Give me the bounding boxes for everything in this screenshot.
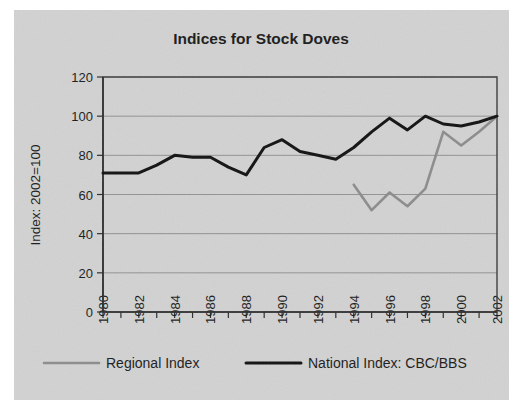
y-tick-label: 60: [79, 188, 93, 203]
y-tick-label: 40: [79, 227, 93, 242]
x-tick-label: 1984: [168, 295, 183, 324]
x-tick-label: 1990: [275, 295, 290, 324]
y-tick-label: 0: [86, 305, 93, 320]
x-tick-label: 1994: [347, 295, 362, 324]
chart-panel: Indices for Stock Doves Index: 2002=100 …: [14, 10, 509, 400]
x-tick-label: 1988: [239, 295, 254, 324]
y-tick-label: 80: [79, 148, 93, 163]
y-tick-label: 100: [71, 109, 93, 124]
y-tick-label: 120: [71, 70, 93, 85]
y-tick-label: 20: [79, 266, 93, 281]
line-chart: Indices for Stock Doves Index: 2002=100 …: [14, 10, 509, 400]
legend-label: National Index: CBC/BBS: [308, 355, 467, 371]
x-tick-label: 2000: [454, 295, 469, 324]
legend-label: Regional Index: [106, 355, 199, 371]
panel-background: [14, 10, 509, 400]
x-tick-label: 1982: [132, 295, 147, 324]
figure-container: Indices for Stock Doves Index: 2002=100 …: [0, 0, 523, 418]
x-tick-label: 1996: [383, 295, 398, 324]
y-axis-title: Index: 2002=100: [28, 145, 43, 246]
x-tick-label: 1986: [203, 295, 218, 324]
x-tick-label: 1998: [418, 295, 433, 324]
x-tick-label: 1992: [311, 295, 326, 324]
chart-title: Indices for Stock Doves: [173, 30, 349, 47]
